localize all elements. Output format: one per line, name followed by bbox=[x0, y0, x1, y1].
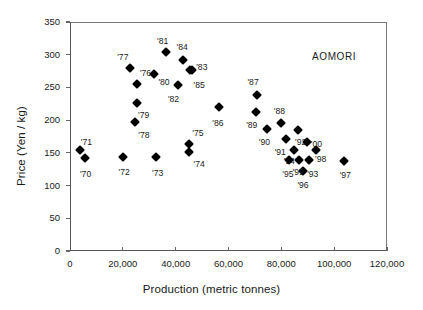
y-tickmark bbox=[66, 185, 70, 186]
data-point-label: '83 bbox=[196, 62, 207, 72]
data-point-label: '72 bbox=[119, 167, 130, 177]
data-point-label: '87 bbox=[247, 77, 258, 87]
y-tickmark bbox=[66, 54, 70, 55]
data-point-label: '97 bbox=[340, 170, 351, 180]
data-point-label: '89 bbox=[246, 120, 257, 130]
y-tickmark bbox=[66, 120, 70, 121]
x-tick-label: 60,000 bbox=[199, 258, 259, 269]
y-tick-label: 200 bbox=[30, 114, 60, 125]
series-annotation-aomori: AOMORI bbox=[312, 51, 356, 62]
x-tick-label: 80,000 bbox=[251, 258, 311, 269]
data-point-label: '71 bbox=[81, 137, 92, 147]
x-tickmark bbox=[175, 247, 176, 251]
y-tickmark bbox=[66, 218, 70, 219]
data-point-label: '85 bbox=[194, 80, 205, 90]
data-point-label: '99 bbox=[293, 167, 304, 177]
y-tick-label: 300 bbox=[30, 49, 60, 60]
y-tick-label: 150 bbox=[30, 147, 60, 158]
x-tickmark bbox=[386, 247, 387, 251]
x-tick-label: 40,000 bbox=[146, 258, 206, 269]
y-tickmark bbox=[66, 250, 70, 251]
y-tickmark bbox=[66, 87, 70, 88]
x-tick-label: 0 bbox=[40, 258, 100, 269]
y-tick-label: 50 bbox=[30, 212, 60, 223]
y-tickmark bbox=[66, 21, 70, 22]
y-tick-label: 100 bbox=[30, 180, 60, 191]
data-point-label: '96 bbox=[297, 180, 308, 190]
x-tick-label: 120,000 bbox=[357, 258, 417, 269]
data-point-label: '81 bbox=[157, 36, 168, 46]
data-point-label: '90 bbox=[259, 137, 270, 147]
y-axis-title: Price (Yen / kg) bbox=[15, 81, 27, 211]
data-point-label: '77 bbox=[117, 52, 128, 62]
data-point-label: '84 bbox=[177, 42, 188, 52]
scatter-chart-figure: Price (Yen / kg) Production (metric tonn… bbox=[0, 0, 423, 310]
data-point-label: '79 bbox=[138, 110, 149, 120]
data-point-label: '93 bbox=[307, 169, 318, 179]
data-point-label: '78 bbox=[138, 130, 149, 140]
x-tickmark bbox=[281, 247, 282, 251]
x-tickmark bbox=[334, 247, 335, 251]
x-tickmark bbox=[122, 247, 123, 251]
data-point-label: '73 bbox=[152, 168, 163, 178]
data-point-label: '74 bbox=[194, 159, 205, 169]
data-point-label: '75 bbox=[192, 128, 203, 138]
data-point-label: '82 bbox=[168, 94, 179, 104]
data-point-label: '86 bbox=[212, 118, 223, 128]
y-tick-label: 0 bbox=[30, 245, 60, 256]
y-tick-label: 250 bbox=[30, 81, 60, 92]
x-tick-label: 100,000 bbox=[304, 258, 364, 269]
data-point-label: '98 bbox=[315, 154, 326, 164]
data-point-label: '80 bbox=[158, 77, 169, 87]
data-point-label: '88 bbox=[274, 106, 285, 116]
x-tick-label: 20,000 bbox=[93, 258, 153, 269]
y-tickmark bbox=[66, 152, 70, 153]
x-tickmark bbox=[228, 247, 229, 251]
y-tick-label: 350 bbox=[30, 16, 60, 27]
data-point-label: '70 bbox=[80, 169, 91, 179]
data-point-label: '00 bbox=[311, 139, 322, 149]
x-axis-title: Production (metric tonnes) bbox=[0, 283, 423, 295]
